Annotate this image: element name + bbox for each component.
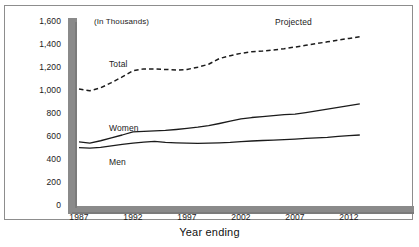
plot-area: 1,600 1,400 1,200 1,000 800 600 400 200 … [5, 6, 414, 221]
y-tick-label: 1,400 [23, 39, 61, 49]
x-tick-label: 1992 [118, 212, 148, 222]
y-tick-label: 200 [23, 177, 61, 187]
series-line-men [79, 135, 360, 148]
chart-figure: 1,600 1,400 1,200 1,000 800 600 400 200 … [0, 0, 419, 247]
y-tick-label: 0 [23, 200, 61, 210]
chart-canvas [5, 6, 414, 221]
series-label-women: Women [109, 123, 139, 133]
series-label-men: Men [109, 157, 126, 167]
x-tick-label: 1987 [64, 212, 94, 222]
clipped-caption [34, 0, 374, 1]
x-tick-label: 2002 [226, 212, 256, 222]
y-tick-label: 400 [23, 154, 61, 164]
y-tick-label: 1,600 [23, 16, 61, 26]
y-tick-label: 800 [23, 108, 61, 118]
y-tick-label: 1,000 [23, 85, 61, 95]
x-axis-title: Year ending [0, 226, 419, 238]
x-tick-label: 2012 [334, 212, 364, 222]
series-label-total: Total [109, 59, 127, 69]
projected-annotation: Projected [275, 17, 312, 27]
units-note: (In Thousands) [94, 17, 149, 26]
x-tick-label: 2007 [280, 212, 310, 222]
y-tick-label: 1,200 [23, 62, 61, 72]
x-tick-label: 1997 [172, 212, 202, 222]
chart-frame: 1,600 1,400 1,200 1,000 800 600 400 200 … [4, 5, 413, 220]
y-tick-label: 600 [23, 131, 61, 141]
